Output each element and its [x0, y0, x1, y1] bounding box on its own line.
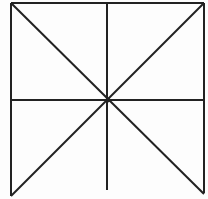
square-diagonals-figure	[0, 0, 208, 199]
scanned-figure-page	[0, 0, 208, 199]
center-intersection-point	[106, 98, 111, 103]
